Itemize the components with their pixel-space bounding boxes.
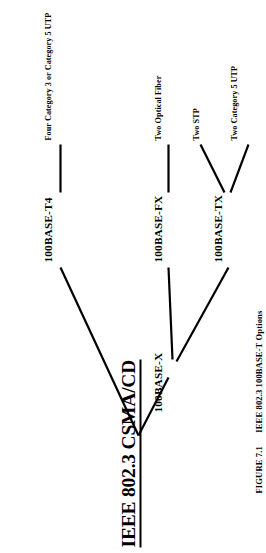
node-100base-tx: 100BASE-TX (212, 195, 223, 262)
leaf-tx-stp-media: Two STP (192, 108, 200, 140)
figure-caption-text: IEEE 802.3 100BASE-T Options (253, 310, 263, 432)
edge-base-x-to-tx (176, 267, 228, 361)
edge-tx-to-stp (200, 144, 224, 192)
figure-canvas: IEEE 802.3 CSMA/CD 100BASE-X 100BASE-T4 … (0, 0, 266, 553)
figure-caption-number: FIGURE 7.1 (253, 446, 263, 493)
node-100base-fx: 100BASE-FX (152, 195, 163, 262)
rotated-page-stage: IEEE 802.3 CSMA/CD 100BASE-X 100BASE-T4 … (0, 0, 266, 553)
node-100base-t4: 100BASE-T4 (42, 197, 53, 262)
edge-tx-to-utp (230, 144, 248, 192)
root-node-label: IEEE 802.3 CSMA/CD (118, 359, 141, 547)
leaf-t4-media: Four Category 3 or Category 5 UTP (44, 12, 52, 140)
node-100base-x: 100BASE-X (152, 352, 163, 412)
edge-base-x-to-fx (168, 267, 172, 359)
leaf-fx-media: Two Optical Fiber (154, 75, 162, 140)
figure-caption: FIGURE 7.1 IEEE 802.3 100BASE-T Options (253, 310, 263, 493)
leaf-tx-utp-media: Two Category 5 UTP (230, 65, 238, 140)
